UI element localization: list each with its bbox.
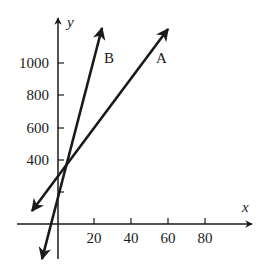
y-tick-label-400: 400: [27, 152, 50, 168]
line-a-label: A: [156, 50, 167, 66]
y-tick-label-600: 600: [27, 120, 50, 136]
line-b-label: B: [104, 50, 114, 66]
line-chart: x y 20 40 60 80 400 600 800 1000 A B: [0, 0, 259, 264]
y-axis-label: y: [65, 14, 74, 30]
line-a: [32, 29, 168, 211]
x-tick-label-40: 40: [124, 230, 139, 246]
x-tick-label-60: 60: [161, 230, 176, 246]
y-tick-label-800: 800: [27, 87, 50, 103]
x-tick-label-80: 80: [198, 230, 213, 246]
x-ticks: [94, 218, 205, 224]
x-axis-label: x: [241, 199, 249, 215]
x-tick-label-20: 20: [87, 230, 102, 246]
y-tick-label-1000: 1000: [19, 55, 49, 71]
